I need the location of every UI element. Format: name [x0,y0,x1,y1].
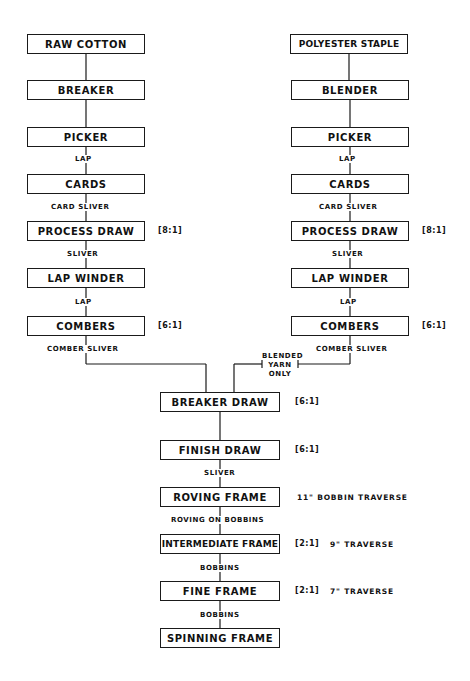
box-cards-right: CARDS [291,174,409,194]
note-line: BLENDED [262,352,298,361]
ratio-process-draw-right: [8:1] [422,226,446,235]
link-label-lap-right-1: LAP [338,155,357,163]
box-label: COMBERS [56,321,115,332]
link-label-card-sliver-right: CARD SLIVER [318,203,379,211]
link-label-sliver-left: SLIVER [66,250,99,258]
blended-yarn-only-note: BLENDED YARN ONLY [262,352,298,379]
link-label-comber-sliver-right: COMBER SLIVER [315,345,389,353]
box-cards-left: CARDS [27,174,145,194]
note-line: YARN [262,361,298,370]
link-label-comber-sliver-left: COMBER SLIVER [46,345,120,353]
box-label: FINE FRAME [183,586,257,597]
box-fine-frame: FINE FRAME [160,581,280,601]
note-fine-frame-traverse: 7" TRAVERSE [330,587,394,596]
link-label-sliver-right: SLIVER [331,250,364,258]
link-label-bobbins-1: BOBBINS [199,564,241,572]
link-label-bobbins-2: BOBBINS [199,611,241,619]
box-label: COMBERS [320,321,379,332]
link-label-sliver-center: SLIVER [203,469,236,477]
box-label: LAP WINDER [48,273,125,284]
box-label: LAP WINDER [312,273,389,284]
box-breaker: BREAKER [27,80,145,100]
note-intermediate-frame-traverse: 9" TRAVERSE [330,540,394,549]
box-breaker-draw: BREAKER DRAW [160,392,280,412]
ratio-breaker-draw: [6:1] [295,397,319,406]
box-label: PICKER [64,132,108,143]
box-label: BREAKER DRAW [171,397,268,408]
box-picker-right: PICKER [291,127,409,147]
link-label-roving-on-bobbins: ROVING ON BOBBINS [170,516,265,524]
note-roving-frame-traverse: 11" BOBBIN TRAVERSE [297,493,408,502]
link-label-lap-right-2: LAP [339,298,358,306]
box-label: PROCESS DRAW [38,226,135,237]
box-label: PICKER [328,132,372,143]
box-finish-draw: FINISH DRAW [160,440,280,460]
note-line: ONLY [262,370,298,379]
box-picker-left: PICKER [27,127,145,147]
box-label: INTERMEDIATE FRAME [162,539,278,549]
box-label: BREAKER [58,85,114,96]
box-lap-winder-left: LAP WINDER [27,268,145,288]
box-combers-right: COMBERS [291,316,409,336]
box-label: BLENDER [322,85,378,96]
box-process-draw-left: PROCESS DRAW [27,221,145,241]
box-process-draw-right: PROCESS DRAW [291,221,409,241]
box-label: SPINNING FRAME [167,633,273,644]
box-label: ROVING FRAME [173,492,267,503]
link-label-lap-left-1: LAP [74,155,93,163]
box-combers-left: COMBERS [27,316,145,336]
link-label-lap-left-2: LAP [74,298,93,306]
ratio-combers-right: [6:1] [422,321,446,330]
box-intermediate-frame: INTERMEDIATE FRAME [160,534,280,554]
ratio-fine-frame: [2:1] [295,586,319,595]
ratio-intermediate-frame: [2:1] [295,539,319,548]
box-label: CARDS [65,179,106,190]
box-label: FINISH DRAW [179,445,262,456]
box-label: POLYESTER STAPLE [299,39,400,49]
box-blender: BLENDER [291,80,409,100]
box-label: CARDS [329,179,370,190]
box-label: PROCESS DRAW [302,226,399,237]
box-polyester-staple: POLYESTER STAPLE [290,34,408,54]
box-spinning-frame: SPINNING FRAME [160,628,280,648]
connector-lines [0,0,470,681]
box-label: RAW COTTON [45,39,127,50]
ratio-finish-draw: [6:1] [295,445,319,454]
box-roving-frame: ROVING FRAME [160,487,280,507]
box-raw-cotton: RAW COTTON [27,34,145,54]
ratio-process-draw-left: [8:1] [158,226,182,235]
box-lap-winder-right: LAP WINDER [291,268,409,288]
ratio-combers-left: [6:1] [158,321,182,330]
link-label-card-sliver-left: CARD SLIVER [50,203,111,211]
